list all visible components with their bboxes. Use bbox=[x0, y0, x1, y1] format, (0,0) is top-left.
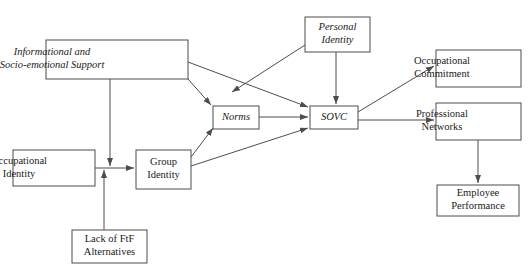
node-label-lack-of-ftf-alternatives: Lack of FtF bbox=[85, 233, 135, 244]
edge-support-to-norms bbox=[188, 79, 211, 105]
nodes-layer: Informational andSocio-emotional Support… bbox=[0, 17, 521, 263]
node-label-lack-of-ftf-alternatives: Alternatives bbox=[84, 246, 135, 257]
node-professional-networks[interactable]: ProfessionalNetworks bbox=[416, 103, 521, 140]
node-label-sovc: SOVC bbox=[321, 111, 348, 122]
node-label-group-identity: Group bbox=[150, 156, 177, 167]
diagram-canvas: Informational andSocio-emotional Support… bbox=[0, 0, 530, 276]
node-label-occupational-commitment: Commitment bbox=[414, 68, 470, 79]
node-occupational-identity[interactable]: OccupationalIdentity bbox=[0, 150, 95, 186]
node-personal-identity[interactable]: PersonalIdentity bbox=[305, 17, 370, 52]
node-label-group-identity: Identity bbox=[147, 169, 180, 180]
node-label-occupational-identity: Occupational bbox=[0, 155, 47, 166]
conceptual-model-diagram: Informational andSocio-emotional Support… bbox=[0, 0, 530, 276]
node-group-identity[interactable]: GroupIdentity bbox=[136, 150, 191, 189]
node-label-occupational-commitment: Occupational bbox=[414, 55, 470, 66]
node-employee-performance[interactable]: EmployeePerformance bbox=[437, 185, 519, 216]
node-label-personal-identity: Personal bbox=[318, 21, 357, 32]
node-label-employee-performance: Performance bbox=[451, 200, 505, 211]
node-label-informational-support: Socio-emotional Support bbox=[0, 59, 105, 70]
node-label-employee-performance: Employee bbox=[457, 187, 500, 198]
node-sovc[interactable]: SOVC bbox=[310, 106, 358, 129]
node-label-professional-networks: Professional bbox=[416, 108, 468, 119]
edge-support-to-sovc bbox=[188, 62, 308, 107]
edge-personal-identity-to-norms bbox=[232, 45, 305, 92]
node-label-norms: Norms bbox=[221, 111, 250, 122]
node-label-informational-support: Informational and bbox=[13, 46, 91, 57]
node-label-personal-identity: Identity bbox=[320, 34, 353, 45]
node-label-occupational-identity: Identity bbox=[3, 168, 36, 179]
node-lack-of-ftf-alternatives[interactable]: Lack of FtFAlternatives bbox=[72, 230, 147, 263]
node-informational-support[interactable]: Informational andSocio-emotional Support bbox=[0, 40, 188, 79]
node-norms[interactable]: Norms bbox=[213, 106, 259, 129]
node-occupational-commitment[interactable]: OccupationalCommitment bbox=[414, 50, 521, 87]
edge-group-identity-to-norms bbox=[191, 128, 213, 157]
node-label-professional-networks: Networks bbox=[422, 121, 463, 132]
